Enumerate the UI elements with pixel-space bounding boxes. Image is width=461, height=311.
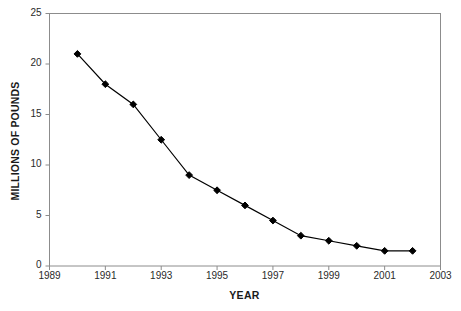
y-tick-label: 25 [8, 7, 42, 18]
plot-border [50, 14, 441, 267]
y-tick-label: 20 [8, 57, 42, 68]
y-tick-label: 10 [8, 158, 42, 169]
x-tick-label: 1995 [195, 270, 239, 281]
data-point-marker [325, 237, 332, 244]
y-tick-label: 15 [8, 108, 42, 119]
series-markers [74, 51, 416, 255]
data-point-marker [270, 217, 277, 224]
data-point-marker [214, 187, 221, 194]
data-point-marker [297, 232, 304, 239]
y-tick-label: 0 [8, 259, 42, 270]
x-tick-label: 1999 [307, 270, 351, 281]
data-point-marker [409, 247, 416, 254]
data-point-marker [242, 202, 249, 209]
series-line [77, 54, 412, 251]
x-tick-label: 2001 [363, 270, 407, 281]
plot-area [0, 0, 461, 311]
data-point-marker [381, 247, 388, 254]
x-tick-label: 2003 [419, 270, 461, 281]
data-point-marker [353, 242, 360, 249]
x-tick-label: 1993 [139, 270, 183, 281]
line-chart: MILLIONS OF POUNDS YEAR 0510152025 19891… [0, 0, 461, 311]
x-tick-label: 1991 [83, 270, 127, 281]
y-axis-ticks [46, 14, 50, 267]
y-tick-label: 5 [8, 209, 42, 220]
x-tick-label: 1997 [251, 270, 295, 281]
x-tick-label: 1989 [28, 270, 72, 281]
